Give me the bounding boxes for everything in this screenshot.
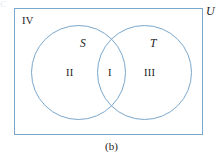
region-label-iii: III [144,68,155,79]
edge-artifact-mark: C [0,0,8,9]
region-label-i: I [108,68,112,79]
set-label-t: T [150,38,156,50]
figure-caption: (b) [0,140,223,152]
region-label-iv: IV [22,16,33,27]
venn-diagram-figure: C U IV S T II I III (b) [0,0,223,161]
set-label-s: S [80,38,86,50]
region-label-ii: II [66,68,73,79]
universe-label: U [206,5,215,17]
